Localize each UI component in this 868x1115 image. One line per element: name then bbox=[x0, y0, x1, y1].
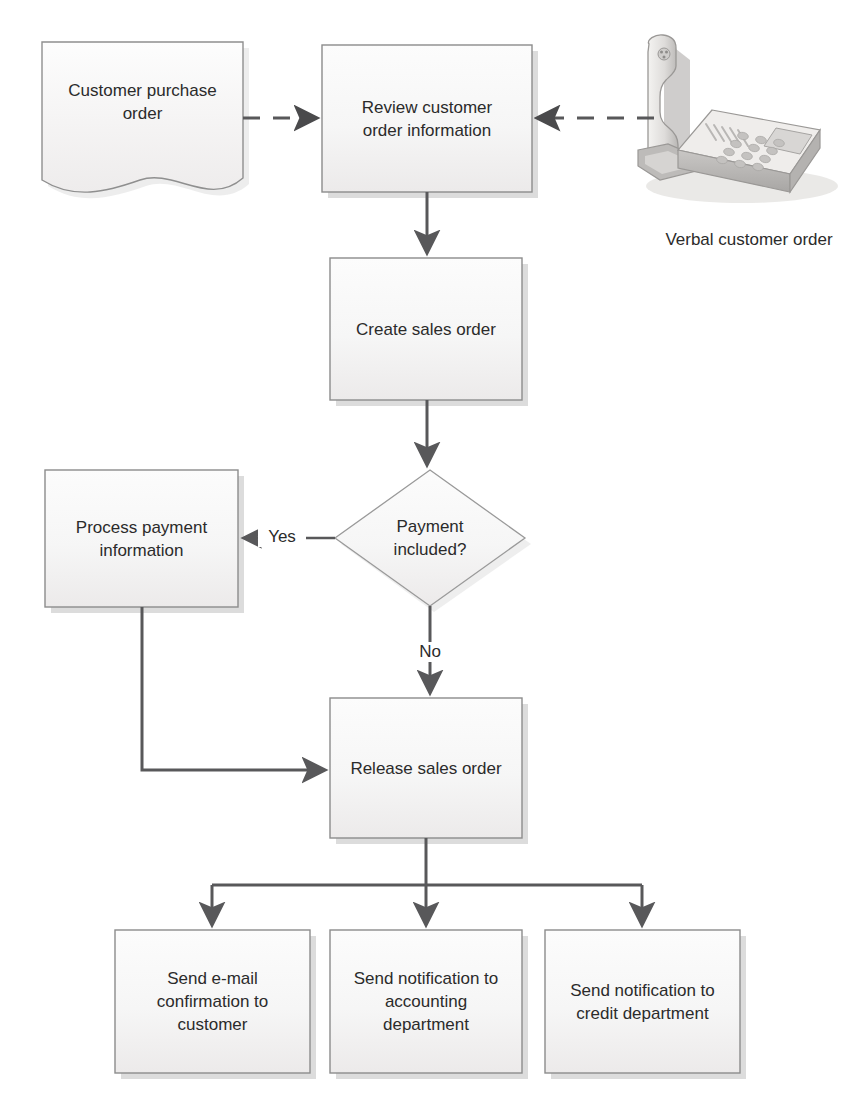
flowchart-canvas: Customer purchase order Review customer … bbox=[0, 0, 868, 1115]
caption-verbal-customer-order-text: Verbal customer order bbox=[644, 230, 854, 250]
node-release-sales-order[interactable] bbox=[330, 698, 522, 838]
node-send-notification-to-credit-department[interactable] bbox=[545, 930, 740, 1073]
node-process-payment-information[interactable] bbox=[45, 470, 238, 607]
edge-process-payment-to-release bbox=[142, 607, 324, 770]
node-send-notification-to-accounting-department[interactable] bbox=[330, 930, 522, 1073]
node-payment-included[interactable] bbox=[335, 470, 531, 612]
node-customer-purchase-order[interactable] bbox=[42, 42, 249, 198]
node-send-email-confirmation-to-customer[interactable] bbox=[115, 930, 310, 1073]
edge-label-yes: Yes bbox=[258, 527, 306, 547]
telephone-icon bbox=[638, 35, 838, 203]
node-review-customer-order-information[interactable] bbox=[322, 45, 532, 192]
caption-verbal-customer-order: Verbal customer order bbox=[0, 230, 868, 250]
node-verbal-customer-order[interactable] bbox=[638, 35, 838, 203]
edge-label-no: No bbox=[408, 642, 452, 662]
flowchart-graphics bbox=[0, 0, 868, 1115]
decision-diamond bbox=[335, 470, 525, 606]
document-shape bbox=[42, 42, 243, 192]
node-create-sales-order[interactable] bbox=[330, 258, 522, 400]
